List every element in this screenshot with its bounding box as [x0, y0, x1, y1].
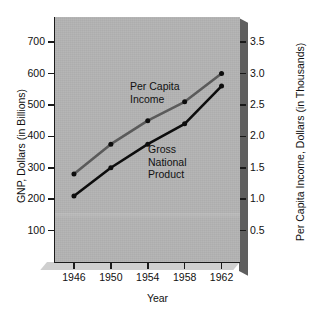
series-label-per-capita-income: Per Capita Income	[130, 80, 180, 105]
data-point-marker	[108, 142, 113, 147]
data-point-marker	[108, 165, 113, 170]
data-point-marker	[219, 71, 224, 76]
data-point-marker	[71, 172, 76, 177]
data-point-marker	[145, 118, 150, 123]
series-label-gross-national-product: Gross National Product	[148, 143, 187, 181]
data-point-marker	[182, 121, 187, 126]
chart-figure: 1002003004005006007000.51.01.52.02.53.03…	[0, 0, 315, 321]
data-point-marker	[71, 194, 76, 199]
data-point-marker	[219, 84, 224, 89]
data-point-marker	[182, 99, 187, 104]
